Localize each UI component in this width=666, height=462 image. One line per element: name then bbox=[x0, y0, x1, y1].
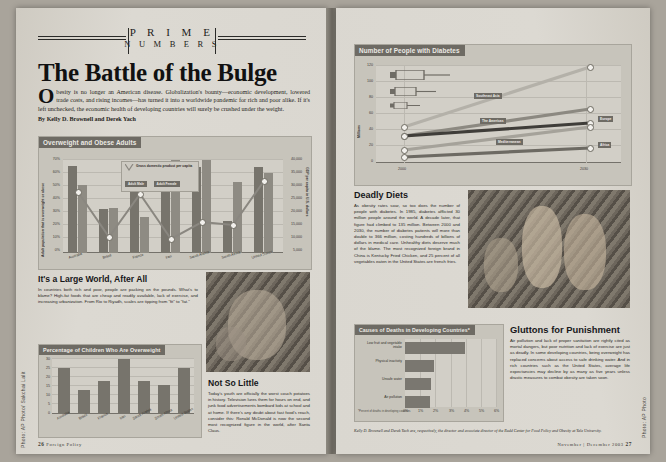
right-folio-text: November | December 2003 bbox=[557, 442, 623, 447]
photo-overweight-men bbox=[468, 190, 630, 308]
series-label-mediterranean: Mediterranean bbox=[496, 139, 523, 145]
masthead-bar-right bbox=[215, 28, 216, 54]
y-tick: 15 bbox=[41, 384, 50, 388]
y-tick: 80 bbox=[363, 95, 373, 99]
magazine-spread: P R I M E N U M B E R S The Battle of th… bbox=[0, 0, 666, 462]
right-photo-credit: Photo: AP Photo bbox=[641, 338, 647, 438]
section-deadly-diets: Deadly Diets As obesity rates soar, so t… bbox=[354, 190, 460, 265]
y-tick-left: 40% bbox=[47, 196, 60, 200]
left-folio-number: 26 bbox=[38, 441, 45, 447]
syringe-icon-medium bbox=[390, 87, 438, 96]
section-gluttons: Gluttons for Punishment Air pollution an… bbox=[510, 324, 630, 381]
photo-overweight-child bbox=[206, 272, 310, 372]
chart-title: Number of People with Diabetes bbox=[355, 45, 465, 56]
masthead-rule-right-2 bbox=[218, 39, 306, 40]
series-label-the-americas: The Americas bbox=[480, 118, 506, 124]
gdp-point bbox=[106, 234, 113, 241]
right-page: Number of People with Diabetes Millions … bbox=[336, 8, 650, 454]
gdp-point bbox=[137, 191, 144, 198]
x-tick: 6% bbox=[494, 409, 499, 413]
x-tick: Iran bbox=[165, 254, 172, 260]
plot-area: Southeast Asia The Americas Europe Medit… bbox=[376, 65, 621, 163]
y-tick-right: 30,000 bbox=[286, 183, 302, 187]
bar-children-overweight bbox=[58, 368, 70, 414]
section-not-so-little: Not So Little Today's youth are official… bbox=[208, 378, 310, 434]
x-tick: Australia bbox=[68, 252, 83, 260]
section-title: Gluttons for Punishment bbox=[510, 324, 630, 335]
y-tick: 100 bbox=[363, 79, 373, 83]
chart-footnote: *Percent of deaths in developing countri… bbox=[358, 409, 410, 413]
y-tick: 0 bbox=[41, 411, 50, 415]
y-axis-label-right: GDP per capita in U.S. dollars bbox=[305, 167, 309, 257]
masthead-rule-left bbox=[38, 36, 126, 37]
chart-legend: Gross domestic product per capita Adult … bbox=[121, 161, 199, 192]
y-tick: 0 bbox=[363, 159, 373, 163]
gdp-point bbox=[230, 222, 237, 229]
y-tick-right: 25,000 bbox=[286, 196, 302, 200]
bar-children-overweight bbox=[78, 390, 90, 414]
syringe-icon-small bbox=[390, 102, 422, 109]
hbar-label: Low fruit and vegetable intake bbox=[358, 341, 402, 349]
x-tick: 1% bbox=[418, 409, 423, 413]
x-tick: 2000 bbox=[398, 167, 406, 171]
y-tick-left: 70% bbox=[47, 157, 60, 161]
y-tick-right: 35,000 bbox=[286, 170, 302, 174]
chart-title: Overweight and Obese Adults bbox=[39, 137, 141, 148]
y-axis-label: Millions bbox=[357, 100, 361, 138]
chart-causes-of-deaths: Causes of Deaths in Developing Countries… bbox=[354, 324, 504, 422]
right-folio: November | December 2003 27 bbox=[557, 441, 632, 447]
y-tick-right: 20,000 bbox=[286, 209, 302, 213]
author-credit: Kelly D. Brownell and Derek Yach are, re… bbox=[354, 428, 612, 433]
x-tick: Brazil bbox=[102, 253, 112, 259]
bar-children-overweight bbox=[178, 368, 190, 414]
x-tick: 5% bbox=[479, 409, 484, 413]
x-tick: 3% bbox=[449, 409, 454, 413]
gdp-point bbox=[199, 219, 206, 226]
chart-overweight-obese-adults: Overweight and Obese Adults Adult popula… bbox=[38, 136, 312, 270]
y-tick-left: 50% bbox=[47, 183, 60, 187]
gdp-point bbox=[261, 178, 268, 185]
syringe-icon-large bbox=[390, 70, 452, 80]
left-folio: 26 Foreign Policy bbox=[38, 441, 82, 447]
section-title: Deadly Diets bbox=[354, 190, 460, 200]
y-tick: 10 bbox=[41, 393, 50, 397]
y-tick: 60 bbox=[363, 111, 373, 115]
y-tick-left: 30% bbox=[47, 209, 60, 213]
series-point-africa bbox=[401, 154, 408, 161]
y-tick: 20 bbox=[41, 375, 50, 379]
y-tick-left: 60% bbox=[47, 170, 60, 174]
hbar-air-pollution bbox=[405, 396, 430, 408]
hbar-physical-inactivity bbox=[405, 360, 434, 372]
legend-line-label: Gross domestic product per capita bbox=[136, 164, 192, 168]
legend-line-icon bbox=[125, 164, 134, 171]
chart-title: Causes of Deaths in Developing Countries… bbox=[355, 325, 475, 335]
hbar-low-fruit-vegetable bbox=[405, 342, 465, 354]
chart-children-overweight: Percentage of Children Who Are Overweigh… bbox=[38, 344, 202, 438]
masthead-numbers: N U M B E R S bbox=[16, 39, 328, 49]
masthead-rule-right bbox=[218, 36, 306, 37]
y-tick-left: 10% bbox=[47, 235, 60, 239]
series-point-the-americas bbox=[587, 106, 594, 113]
section-body: In countries both rich and poor, people … bbox=[38, 287, 198, 306]
masthead: P R I M E N U M B E R S bbox=[16, 26, 328, 49]
series-label-southeast-asia: Southeast Asia bbox=[474, 93, 502, 99]
series-point-europe bbox=[401, 133, 408, 140]
article-deck: Obesity is no longer an American disease… bbox=[38, 88, 310, 124]
gdp-point bbox=[168, 236, 175, 243]
hbar-label: Air pollution bbox=[358, 395, 402, 399]
hbar-label: Physical inactivity bbox=[358, 359, 402, 363]
legend-swatch-male: Adult Male bbox=[125, 181, 147, 187]
masthead-bar-left bbox=[128, 28, 129, 54]
series-point-africa bbox=[587, 145, 594, 152]
hbar-label: Unsafe water bbox=[358, 377, 402, 381]
series-point-mediterranean bbox=[401, 147, 408, 154]
page-title: The Battle of the Bulge bbox=[38, 60, 308, 85]
drop-cap: O bbox=[38, 89, 56, 104]
legend-swatch-female: Adult Female bbox=[154, 181, 180, 187]
series-label-europe: Europe bbox=[598, 116, 613, 122]
section-title: It's a Large World, After All bbox=[38, 274, 198, 284]
y-tick: 30 bbox=[41, 357, 50, 361]
x-tick: 2% bbox=[433, 409, 438, 413]
deck-text: besity is no longer an American disease.… bbox=[38, 89, 310, 112]
chart-title: Percentage of Children Who Are Overweigh… bbox=[39, 345, 165, 355]
